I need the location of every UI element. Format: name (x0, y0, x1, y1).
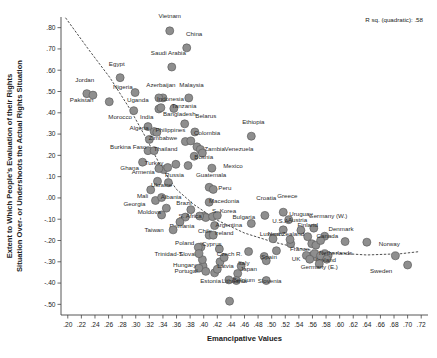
data-point[interactable] (116, 74, 124, 82)
data-point[interactable] (279, 208, 287, 216)
data-point-label: Bosnia (194, 153, 213, 160)
data-point-label: Ukraine (151, 181, 173, 188)
data-point-label: Norway (379, 240, 401, 247)
x-tick-label: .54 (294, 321, 303, 328)
data-point[interactable] (306, 255, 314, 263)
data-point-label: U.S.A. (272, 217, 290, 224)
data-point[interactable] (195, 250, 203, 258)
data-point-label: Bangladesh (163, 110, 196, 117)
data-point-label: Argentina (216, 221, 243, 228)
x-tick-label: .40 (199, 321, 208, 328)
data-point-label: Greece (277, 192, 298, 199)
data-point[interactable] (105, 98, 113, 106)
data-point[interactable] (187, 137, 195, 145)
data-point[interactable] (209, 185, 217, 193)
data-point-label: Moldova (138, 208, 162, 215)
data-point[interactable] (185, 94, 193, 102)
x-tick-label: .42 (213, 321, 222, 328)
data-point[interactable] (363, 238, 371, 246)
data-point-label: Latvia (217, 262, 234, 269)
x-tick-label: .20 (63, 321, 72, 328)
data-point[interactable] (184, 162, 192, 170)
data-point[interactable] (245, 248, 253, 256)
data-point-label: China (186, 30, 203, 37)
data-point[interactable] (247, 219, 255, 227)
data-point-label: Germany (W.) (309, 212, 348, 219)
x-tick-label: .26 (104, 321, 113, 328)
x-tick-label: .28 (118, 321, 127, 328)
data-point-label: Venezuela (225, 145, 254, 152)
data-point-label: Croatia (256, 194, 277, 201)
x-tick-label: .62 (349, 321, 358, 328)
data-point-label: Turkey (145, 159, 165, 166)
data-point-label: Sweden (370, 267, 393, 274)
plot-canvas: .80.70.60.50.40.30.20.10.00-.10-.20-.30-… (0, 0, 437, 358)
data-point[interactable] (226, 297, 234, 305)
data-point[interactable] (166, 27, 174, 35)
x-tick-label: .34 (158, 321, 167, 328)
data-point[interactable] (247, 132, 255, 140)
data-point-label: Spain (261, 253, 277, 260)
y-tick-label: .50 (46, 88, 55, 95)
data-point[interactable] (304, 233, 312, 241)
x-tick-label: .48 (254, 321, 263, 328)
y-tick-label: -.30 (44, 258, 56, 265)
data-point-label: Ethiopia (242, 118, 265, 125)
data-point-label: Zimbabwe (149, 134, 178, 141)
data-point-label: Uganda (127, 96, 149, 103)
data-point[interactable] (202, 267, 210, 275)
y-axis-title-line-2: Situation Over- or Undershoots the Actua… (15, 60, 24, 272)
data-point-label: Guatemala (196, 171, 227, 178)
data-point-label: S. Africa (179, 212, 203, 219)
data-point[interactable] (341, 238, 349, 246)
data-point-label: Germany (E.) (301, 263, 338, 270)
x-tick-label: .36 (172, 321, 181, 328)
data-point-label: Finland (298, 221, 319, 228)
data-point-label: Algeria (130, 124, 150, 131)
data-point-label: Nigeria (113, 83, 133, 90)
data-point-label: UK (292, 255, 301, 262)
y-tick-label: .30 (46, 130, 55, 137)
data-point-label: Vietnam (158, 12, 181, 19)
data-point-label: Mali (137, 192, 148, 199)
x-tick-label: .58 (321, 321, 330, 328)
data-point-label: Macedonia (209, 197, 240, 204)
data-point[interactable] (261, 211, 269, 219)
x-tick-label: .72 (417, 321, 426, 328)
data-point-label: Egypt (109, 60, 125, 67)
x-tick-label: .70 (403, 321, 412, 328)
x-tick-label: .30 (131, 321, 140, 328)
y-tick-label: .60 (46, 67, 55, 74)
x-tick-label: .68 (389, 321, 398, 328)
data-point-label: Luxemb. (260, 230, 284, 237)
data-point[interactable] (404, 261, 412, 269)
x-tick-label: .64 (362, 321, 371, 328)
data-point-label: Peru (218, 184, 232, 191)
data-point-label: Poland (175, 239, 195, 246)
data-point-label: Trinidad-T. (155, 250, 184, 257)
x-tick-label: .60 (335, 321, 344, 328)
data-point-label: Burkina Faso (110, 143, 147, 150)
data-point[interactable] (162, 204, 170, 212)
data-point-label: Georgia (123, 200, 146, 207)
data-point-label: Jordan (75, 76, 94, 83)
data-point-label: Thailand (154, 145, 178, 152)
data-point-label: Estonia (200, 277, 221, 284)
data-point-label: Morocco (108, 113, 132, 120)
data-point-label: Azerbaijan (146, 81, 176, 88)
data-point-label: Japan (240, 265, 257, 272)
y-tick-label: .70 (46, 45, 55, 52)
data-point[interactable] (169, 226, 177, 234)
data-point-label: France (290, 245, 310, 252)
data-point[interactable] (172, 160, 180, 168)
scatter-plot-figure: .80.70.60.50.40.30.20.10.00-.10-.20-.30-… (0, 0, 437, 358)
data-point-label: Russia (165, 171, 184, 178)
data-point-label: Portugal (175, 267, 198, 274)
data-point[interactable] (391, 252, 399, 260)
x-tick-label: .24 (90, 321, 99, 328)
data-point[interactable] (168, 63, 176, 71)
data-point-label: Armenia (132, 168, 156, 175)
x-tick-label: .46 (240, 321, 249, 328)
rsq-annotation: R sq. (quadratic): .58 (365, 16, 423, 23)
y-tick-label: .40 (46, 109, 55, 116)
